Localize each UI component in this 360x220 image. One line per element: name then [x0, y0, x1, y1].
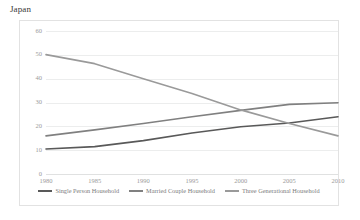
legend-line-swatch	[129, 190, 143, 192]
legend-item-label: Single Person Household	[55, 188, 119, 194]
legend-item-label: Married Couple Household	[146, 188, 215, 194]
chart-legend: Single Person HouseholdMarried Couple Ho…	[20, 188, 338, 194]
series-line	[46, 103, 338, 136]
legend-item[interactable]: Three Generational Household	[225, 188, 320, 194]
series-line	[46, 117, 338, 149]
legend-line-swatch	[225, 190, 239, 192]
series-lines-group	[20, 21, 338, 205]
page-title: Japan	[10, 4, 31, 14]
legend-line-swatch	[38, 190, 52, 192]
legend-item-label: Three Generational Household	[242, 188, 320, 194]
legend-item[interactable]: Single Person Household	[38, 188, 119, 194]
legend-item[interactable]: Married Couple Household	[129, 188, 215, 194]
series-line	[46, 55, 338, 136]
chart-page: Japan 6050403020100 19801985199019952000…	[0, 0, 360, 220]
chart-frame: 6050403020100 19801985199019952000200520…	[19, 20, 339, 206]
plot-area: 6050403020100 19801985199019952000200520…	[20, 21, 338, 205]
